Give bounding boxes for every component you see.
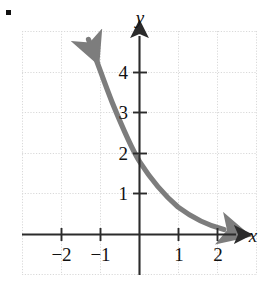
x-tick-label-neg1: −1: [90, 244, 110, 265]
y-tick-label-2: 2: [119, 143, 129, 164]
y-tick-label-4: 4: [119, 62, 129, 83]
x-tick-label-1: 1: [174, 244, 184, 265]
y-tick-label-3: 3: [119, 102, 129, 123]
bullet-marker: [6, 10, 11, 15]
exponential-decay-curve: [89, 40, 225, 230]
coordinate-plane: −2 −1 1 2 4 3 2 1 y x: [0, 0, 278, 297]
x-tick-label-2: 2: [213, 244, 223, 265]
axes: [22, 36, 236, 275]
x-tick-label-neg2: −2: [51, 244, 71, 265]
y-tick-label-1: 1: [119, 183, 129, 204]
x-axis-label: x: [248, 225, 258, 246]
graph-figure: −2 −1 1 2 4 3 2 1 y x: [0, 0, 278, 297]
y-axis-label: y: [134, 7, 145, 28]
